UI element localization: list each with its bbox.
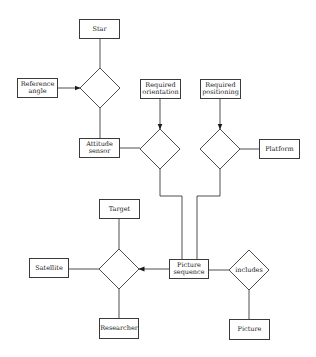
relationships [80, 68, 269, 290]
star-relation-diamond [80, 68, 120, 108]
connector-orientation-relation-to-picture-sequence [160, 169, 182, 259]
entity-picture-sequence: Picture sequence [169, 259, 209, 279]
positioning-relation-diamond [200, 129, 240, 169]
entity-required-positioning: Required positioning [200, 79, 241, 99]
entity-attitude-sensor: Attitude sensor [79, 138, 120, 158]
er-diagram: StarReference angleAttitude sensorRequir… [0, 0, 316, 357]
entity-picture: Picture [229, 319, 270, 340]
includes-relation-label: includes [229, 266, 269, 274]
entity-satellite: Satellite [29, 258, 69, 278]
entity-reference-angle: Reference angle [17, 78, 58, 98]
diagram-canvas [0, 0, 316, 357]
entity-platform: Platform [259, 139, 300, 159]
entity-researcher: Researcher [99, 318, 139, 339]
orientation-relation-diamond [140, 129, 180, 169]
entity-target: Target [99, 199, 140, 219]
entity-star: Star [79, 19, 120, 39]
entity-required-orientation: Required orientation [140, 79, 181, 99]
connector-positioning-relation-to-picture-sequence [197, 169, 220, 259]
target-relation-diamond [99, 249, 139, 289]
